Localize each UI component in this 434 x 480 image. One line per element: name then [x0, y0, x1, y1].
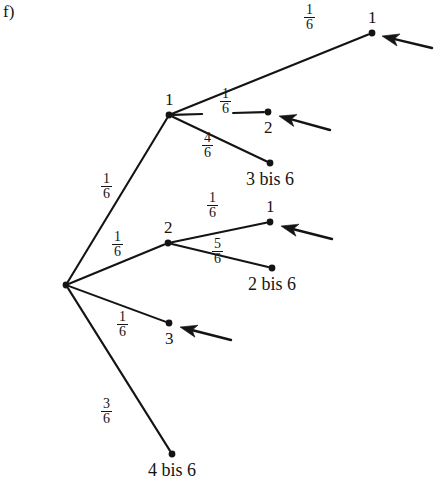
arrow-layer [180, 34, 432, 340]
node-label: 2 [264, 119, 273, 136]
probability-denominator: 6 [101, 411, 112, 426]
tree-edge [173, 34, 369, 113]
pointer-arrow-shaft [293, 229, 332, 239]
pointer-arrow-shaft [394, 39, 432, 48]
edge-probability: 16 [304, 3, 315, 33]
probability-denominator: 6 [112, 244, 123, 259]
probability-numerator: 1 [112, 230, 123, 244]
edge-probability: 16 [207, 191, 218, 221]
tree-node-dot [166, 320, 173, 327]
edge-probability: 16 [220, 87, 231, 117]
node-label: 2 [164, 219, 173, 236]
tree-node-dot [169, 451, 176, 458]
node-label: 1 [165, 91, 174, 108]
probability-denominator: 6 [207, 205, 218, 220]
edge-probability: 56 [212, 237, 223, 267]
tree-edge [173, 114, 202, 115]
probability-denominator: 6 [220, 101, 231, 116]
tree-node-dot [165, 240, 172, 247]
probability-numerator: 1 [101, 172, 112, 186]
tree-node-dot [369, 30, 376, 37]
probability-numerator: 3 [101, 397, 112, 411]
probability-denominator: 6 [202, 145, 213, 160]
edge-probability: 36 [101, 397, 112, 427]
node-label: 4 bis 6 [148, 461, 196, 479]
node-label: 1 [266, 198, 275, 215]
probability-denominator: 6 [117, 324, 128, 339]
probability-numerator: 4 [202, 131, 213, 145]
node-label: 3 bis 6 [246, 170, 294, 188]
tree-node-dot [63, 282, 70, 289]
tree-node-dot [267, 160, 274, 167]
node-label: 3 [165, 330, 174, 347]
probability-numerator: 1 [207, 191, 218, 205]
pointer-arrow-shaft [192, 330, 231, 340]
probability-denominator: 6 [101, 186, 112, 201]
probability-numerator: 5 [212, 237, 223, 251]
tree-edge [233, 112, 264, 113]
tree-node-dot [166, 112, 173, 119]
probability-numerator: 1 [304, 3, 315, 17]
edge-probability: 16 [117, 310, 128, 340]
pointer-arrow-shaft [291, 119, 330, 130]
probability-denominator: 6 [304, 17, 315, 32]
edge-probability: 46 [202, 131, 213, 161]
node-label: 1 [368, 9, 377, 26]
probability-numerator: 1 [117, 310, 128, 324]
tree-diagram-figure: 1616163616164616561234 bis 6123 bis 612 … [0, 0, 434, 480]
edge-probability: 16 [112, 230, 123, 260]
tree-node-dot [267, 219, 274, 226]
tree-edge [173, 117, 267, 162]
tree-node-dot [265, 109, 272, 116]
tree-node-dot [269, 265, 276, 272]
probability-denominator: 6 [212, 251, 223, 266]
node-label: 2 bis 6 [248, 275, 296, 293]
probability-numerator: 1 [220, 87, 231, 101]
part-label: f) [3, 3, 14, 20]
edge-probability: 16 [101, 172, 112, 202]
